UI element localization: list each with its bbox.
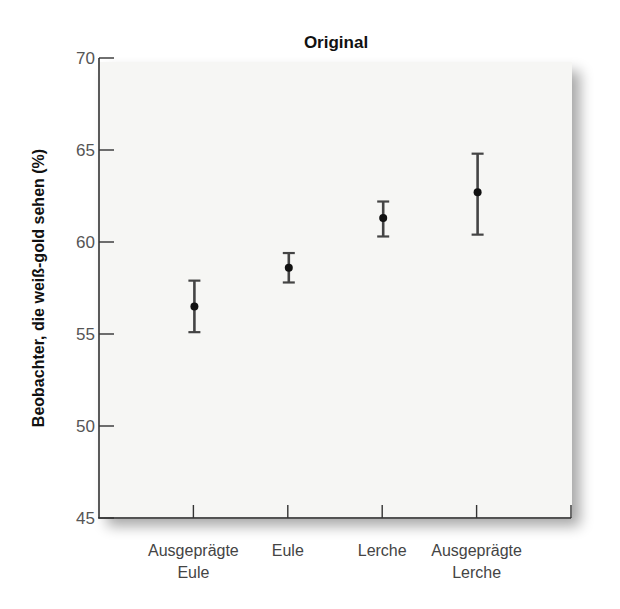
y-tick-label: 70 <box>76 49 95 68</box>
y-tick-label: 45 <box>76 509 95 528</box>
data-point-marker <box>190 302 198 310</box>
data-point-marker <box>379 214 387 222</box>
x-tick-label: Ausgeprägte <box>148 542 239 559</box>
x-tick-label: Lerche <box>452 564 501 581</box>
data-point-marker <box>285 264 293 272</box>
chart-title: Original <box>304 33 368 52</box>
y-tick-label: 65 <box>76 141 95 160</box>
y-tick-label: 60 <box>76 233 95 252</box>
y-tick-label: 55 <box>76 325 95 344</box>
chart: Original Beobachter, die weiß-gold sehen… <box>0 0 620 609</box>
y-tick-label: 50 <box>76 417 95 436</box>
plot-panel <box>99 62 572 517</box>
x-tick-label: Ausgeprägte <box>431 542 522 559</box>
x-tick-label: Eule <box>177 564 209 581</box>
x-tick-label: Eule <box>272 542 304 559</box>
data-point-marker <box>474 188 482 196</box>
x-tick-label: Lerche <box>358 542 407 559</box>
y-axis-label: Beobachter, die weiß-gold sehen (%) <box>30 149 47 427</box>
